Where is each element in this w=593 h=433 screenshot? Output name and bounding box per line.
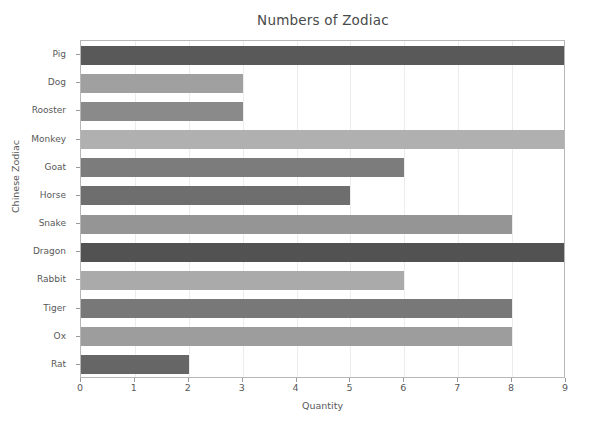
y-tick-mark [76,139,80,140]
bar-ox[interactable] [81,327,512,346]
y-tick-mark [76,110,80,111]
y-tick-label-dragon: Dragon [33,246,66,256]
x-tick-label-8: 8 [508,382,514,393]
x-tick-label-2: 2 [185,382,191,393]
x-tick-mark [349,378,350,382]
y-tick-mark [76,279,80,280]
x-axis-tick-labels: 0123456789 [80,382,565,398]
bar-row [81,355,564,374]
y-tick-label-goat: Goat [44,162,66,172]
bar-dog[interactable] [81,74,243,93]
y-tick-mark [76,223,80,224]
bar-row [81,327,564,346]
x-tick-label-9: 9 [562,382,568,393]
y-tick-label-dog: Dog [48,77,66,87]
x-tick-mark [80,378,81,382]
bar-pig[interactable] [81,46,565,65]
y-tick-mark [76,308,80,309]
y-tick-label-tiger: Tiger [43,303,66,313]
bar-tiger[interactable] [81,299,512,318]
bar-dragon[interactable] [81,243,565,262]
chart-title: Numbers of Zodiac [80,12,566,28]
y-tick-mark [76,54,80,55]
bar-row [81,271,564,290]
bar-row [81,299,564,318]
x-tick-mark [242,378,243,382]
bar-row [81,46,564,65]
y-tick-label-rabbit: Rabbit [37,274,66,284]
y-tick-mark [76,195,80,196]
bar-row [81,186,564,205]
x-tick-mark [457,378,458,382]
x-tick-label-1: 1 [131,382,137,393]
y-tick-mark [76,364,80,365]
bar-row [81,102,564,121]
x-tick-mark [403,378,404,382]
x-tick-label-7: 7 [454,382,460,393]
bar-row [81,243,564,262]
bar-row [81,130,564,149]
bar-series [81,41,564,377]
x-tick-label-5: 5 [346,382,352,393]
x-tick-mark [296,378,297,382]
bar-goat[interactable] [81,158,404,177]
x-tick-mark [511,378,512,382]
bar-row [81,158,564,177]
y-tick-label-ox: Ox [54,331,66,341]
bar-horse[interactable] [81,186,350,205]
bar-monkey[interactable] [81,130,565,149]
bar-row [81,215,564,234]
chart-figure: Numbers of Zodiac PigDogRoosterMonkeyGoa… [0,0,593,433]
y-tick-label-snake: Snake [39,218,66,228]
bar-rooster[interactable] [81,102,243,121]
x-tick-mark [565,378,566,382]
y-axis-label: Chinese Zodiac [10,132,21,222]
x-axis-label: Quantity [80,400,565,411]
bar-row [81,74,564,93]
y-tick-mark [76,82,80,83]
y-tick-label-rat: Rat [51,359,66,369]
y-tick-label-rooster: Rooster [32,105,66,115]
bar-rabbit[interactable] [81,271,404,290]
x-tick-mark [188,378,189,382]
bar-snake[interactable] [81,215,512,234]
y-tick-label-monkey: Monkey [31,134,66,144]
plot-area [80,40,565,378]
y-tick-label-horse: Horse [40,190,66,200]
y-tick-mark [76,336,80,337]
x-tick-mark [134,378,135,382]
y-tick-mark [76,167,80,168]
x-tick-label-0: 0 [77,382,83,393]
bar-rat[interactable] [81,355,189,374]
x-tick-label-4: 4 [293,382,299,393]
x-tick-label-6: 6 [400,382,406,393]
x-tick-label-3: 3 [239,382,245,393]
y-tick-label-pig: Pig [53,49,66,59]
y-tick-mark [76,251,80,252]
